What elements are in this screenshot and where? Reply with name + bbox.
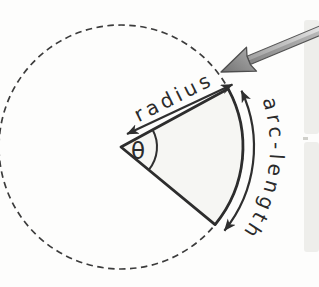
theta-label: θ xyxy=(131,138,145,164)
page-edge-mark xyxy=(303,137,308,140)
page-edge-strip-bottom xyxy=(304,142,319,252)
sector-diagram: θ radius arc-length xyxy=(0,0,319,287)
diagram-canvas: θ radius arc-length xyxy=(0,0,319,287)
